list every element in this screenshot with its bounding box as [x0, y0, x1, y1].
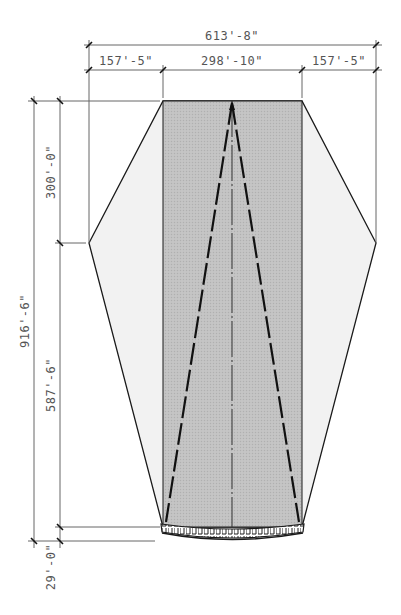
overall-width-label: 613'-8": [205, 29, 259, 43]
upper-length-label: 300'-0": [44, 145, 58, 199]
center-width-label: 298'-10": [201, 54, 263, 68]
lower-length-label: 587'-6": [44, 358, 58, 412]
overall-length-label: 916'-6": [18, 294, 32, 348]
plan-drawing: 613'-8" 157'-5" 298'-10" 157'-5" 300'-0"…: [0, 0, 401, 615]
right-wing-width-label: 157'-5": [312, 54, 366, 68]
end-strip-depth-label: 29'-0": [44, 544, 58, 590]
left-wing-width-label: 157'-5": [99, 54, 153, 68]
